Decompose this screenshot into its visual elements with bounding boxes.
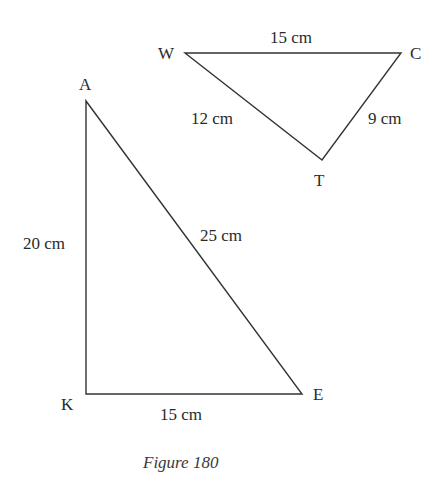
vertex-label-t: T	[314, 171, 325, 190]
figure-canvas: W C T 15 cm 12 cm 9 cm A K E 20 cm 25 cm…	[0, 0, 448, 481]
side-label-wt: 12 cm	[191, 109, 233, 128]
side-label-ae: 25 cm	[200, 226, 242, 245]
triangle-ake-outline	[86, 101, 302, 394]
side-label-tc: 9 cm	[368, 109, 402, 128]
side-label-ke: 15 cm	[160, 405, 202, 424]
vertex-label-e: E	[313, 385, 323, 404]
figure-caption: Figure 180	[142, 453, 219, 472]
side-label-ak: 20 cm	[23, 234, 65, 253]
vertex-label-w: W	[158, 44, 175, 63]
side-label-wc: 15 cm	[270, 28, 312, 47]
vertex-label-k: K	[61, 395, 74, 414]
vertex-label-c: C	[410, 44, 421, 63]
triangle-ake: A K E 20 cm 25 cm 15 cm	[23, 75, 323, 424]
vertex-label-a: A	[79, 75, 92, 94]
triangle-wtc-outline	[185, 53, 401, 160]
triangle-wtc: W C T 15 cm 12 cm 9 cm	[158, 28, 421, 190]
